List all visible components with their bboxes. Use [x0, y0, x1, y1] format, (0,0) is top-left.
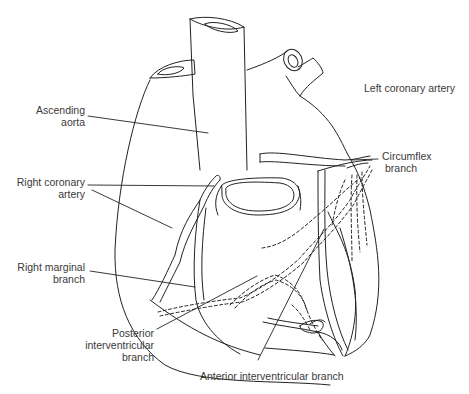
posterior-dashed-vessels: [158, 166, 372, 340]
label-anterior-interventricular-branch: Anterior interventricular branch: [200, 370, 344, 382]
heart-diagram: Ascending aorta Right coronary artery Ri…: [0, 0, 469, 394]
leader-right-coronary-a: [88, 185, 214, 186]
anterior-interventricular-vessel: [318, 170, 356, 356]
label-line: aorta: [20, 116, 85, 128]
aorta-vessel: [190, 17, 247, 170]
label-line: branch: [5, 273, 85, 285]
leader-lines: [88, 116, 378, 360]
label-line: branch: [60, 351, 154, 363]
label-line: Anterior interventricular branch: [200, 370, 344, 382]
label-line: Circumflex: [382, 150, 432, 162]
label-line: Right coronary: [5, 176, 85, 188]
label-line: artery: [5, 188, 85, 200]
label-left-coronary-artery: Left coronary artery: [364, 82, 455, 94]
label-right-coronary-artery: Right coronary artery: [5, 176, 85, 200]
label-line: branch: [382, 162, 432, 174]
leader-ascending-aorta: [88, 116, 208, 133]
label-ascending-aorta: Ascending aorta: [20, 104, 85, 128]
label-line: Ascending: [20, 104, 85, 116]
leader-right-marginal: [90, 271, 195, 287]
label-posterior-interventricular-branch: Posterior interventricular branch: [60, 327, 154, 363]
label-line: Left coronary artery: [364, 82, 455, 94]
aortic-root: [216, 178, 301, 215]
label-line: Posterior: [60, 327, 154, 339]
right-coronary-artery-vessel: [152, 175, 240, 354]
label-line: Right marginal: [5, 261, 85, 273]
pulmonary-vessel: [247, 46, 323, 96]
label-right-marginal-branch: Right marginal branch: [5, 261, 85, 285]
label-circumflex-branch: Circumflex branch: [382, 150, 432, 174]
vena-cava-vessel: [150, 60, 195, 78]
leader-right-coronary-b: [92, 190, 172, 228]
leader-anterior-interventricular: [258, 229, 324, 360]
label-line: interventricular: [60, 339, 154, 351]
